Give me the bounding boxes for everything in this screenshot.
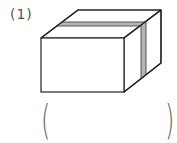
answer-paren-close: ) [165, 100, 174, 140]
box-front-face [41, 38, 124, 92]
tape-band-right [141, 21, 146, 78]
answer-paren-open: ( [41, 100, 50, 140]
box-figure [0, 0, 177, 143]
tape-band-top-fill [57, 22, 145, 26]
